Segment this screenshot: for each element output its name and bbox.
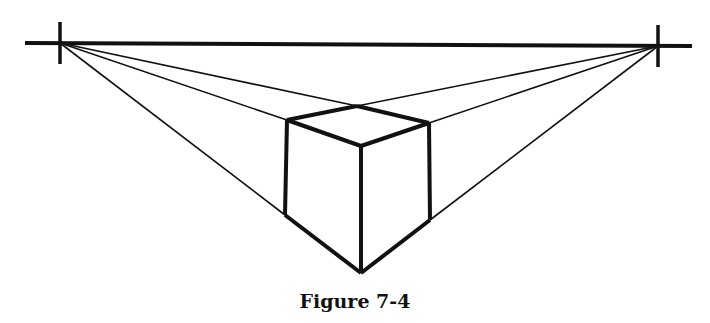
cube-edge (361, 220, 430, 273)
guide-line-left (60, 43, 287, 120)
cube-edge (287, 106, 357, 120)
cube-edge (357, 106, 429, 123)
cube-edge (429, 123, 430, 220)
cube (285, 106, 430, 273)
guide-line-right (430, 46, 658, 220)
horizon-line (25, 43, 692, 46)
cube-edge (361, 123, 429, 146)
guide-line-left (60, 43, 357, 106)
cube-edge (287, 120, 361, 146)
cube-edge (285, 120, 287, 215)
cube-edge (285, 215, 361, 273)
guide-line-left (60, 43, 285, 215)
perspective-diagram (0, 0, 710, 323)
figure-caption: Figure 7-4 (0, 290, 710, 312)
